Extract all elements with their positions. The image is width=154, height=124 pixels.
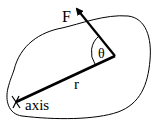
angle-label: θ	[98, 46, 105, 61]
force-vector	[77, 9, 115, 56]
radius-line	[16, 56, 115, 102]
radius-label: r	[74, 76, 79, 92]
axis-label: axis	[25, 97, 49, 113]
torque-diagram: F θ r axis	[0, 0, 154, 124]
force-label: F	[62, 8, 71, 25]
